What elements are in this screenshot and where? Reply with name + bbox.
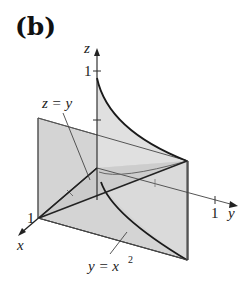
cylinder-equation-exponent: 2 xyxy=(128,254,133,265)
x-tick-label: 1 xyxy=(27,210,35,226)
plane-equation: z = y xyxy=(41,95,72,111)
x-axis-label: x xyxy=(16,237,24,253)
z-axis-arrow-icon xyxy=(94,48,100,56)
z-axis-label: z xyxy=(83,40,90,56)
z-tick-label: 1 xyxy=(84,63,92,79)
cylinder-equation: y = x xyxy=(86,258,119,274)
y-axis-label: y xyxy=(226,205,235,221)
3d-region-diagram: z 1 1 x 1 y z = y y = x 2 xyxy=(0,0,249,289)
y-tick-label: 1 xyxy=(211,205,219,221)
